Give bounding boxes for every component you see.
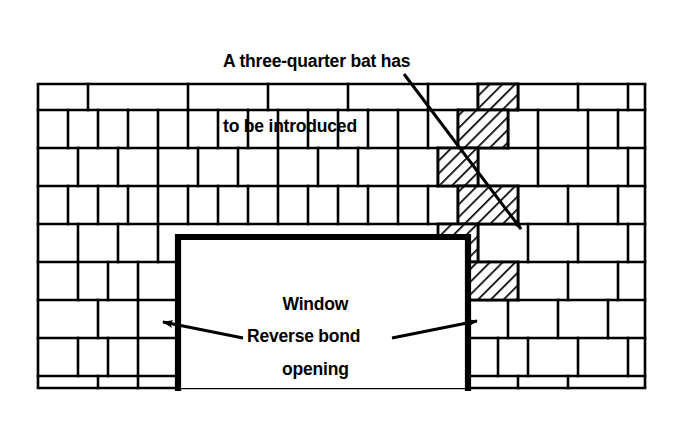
three-quarter-bat-brick [458, 186, 518, 224]
three-quarter-bat-callout-line1: A three-quarter bat has [223, 51, 410, 73]
window-opening-label-line1: Window [282, 294, 349, 316]
three-quarter-bat-brick [468, 262, 518, 300]
three-quarter-bat-brick [478, 84, 518, 110]
window-opening-label-line2: opening [282, 359, 349, 381]
three-quarter-bat-brick [458, 110, 508, 148]
brickwork-diagram: A three-quarter bat has to be introduced… [0, 0, 683, 428]
three-quarter-bat-callout: A three-quarter bat has to be introduced [223, 8, 410, 182]
three-quarter-bat-brick [438, 148, 478, 186]
three-quarter-bat-callout-line2: to be introduced [223, 116, 410, 138]
reverse-bond-label: Reverse bond [247, 326, 360, 348]
